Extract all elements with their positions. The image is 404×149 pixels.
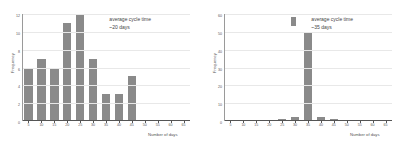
y-tick-label: 10 — [218, 104, 222, 108]
y-tick-label: 30 — [218, 68, 222, 72]
gridline — [22, 50, 190, 51]
y-tick-label: 40 — [218, 50, 222, 54]
legend-swatch-right — [291, 17, 296, 26]
x-tick-label: 45 — [332, 124, 336, 128]
annotation-right-line1: average cycle time — [311, 16, 353, 24]
gridline — [224, 14, 392, 15]
annotation-left: average cycle time ~20 days — [109, 16, 151, 31]
x-tick-label: 35 — [104, 124, 108, 128]
x-tick-label: 65 — [182, 124, 186, 128]
x-tick-label: 5 — [27, 124, 29, 128]
y-tick-label: 12 — [16, 15, 20, 19]
x-tick-label: 15 — [52, 124, 56, 128]
x-tick-label: 5 — [229, 124, 231, 128]
y-tick-label: 0 — [18, 122, 20, 126]
x-tick-label: 50 — [143, 124, 147, 128]
chart-panel-right: 01020304050605101520253035404550556065 F… — [202, 0, 404, 149]
x-tick-label: 25 — [78, 124, 82, 128]
x-tick-label: 30 — [91, 124, 95, 128]
x-tick-label: 25 — [280, 124, 284, 128]
gridline — [22, 14, 190, 15]
x-axis-label-left: Number of days — [148, 132, 178, 137]
plot-area-right: 01020304050605101520253035404550556065 — [224, 14, 392, 121]
y-axis-label-left: Frequency — [10, 53, 15, 73]
x-tick-label: 45 — [130, 124, 134, 128]
y-tick-label: 8 — [18, 50, 20, 54]
annotation-right-line2: ~35 days — [311, 24, 353, 32]
y-tick-label: 10 — [16, 33, 20, 37]
bar — [115, 94, 124, 121]
x-tick-label: 30 — [293, 124, 297, 128]
annotation-left-line1: average cycle time — [109, 16, 151, 24]
bar — [63, 23, 72, 121]
gridline — [22, 68, 190, 69]
x-tick-label: 40 — [117, 124, 121, 128]
x-tick-label: 55 — [358, 124, 362, 128]
gridline — [224, 32, 392, 33]
x-tick-label: 60 — [169, 124, 173, 128]
y-axis-line — [224, 14, 225, 121]
y-tick-label: 4 — [18, 86, 20, 90]
bar — [304, 32, 313, 121]
gridline — [224, 68, 392, 69]
gridline — [224, 50, 392, 51]
annotation-left-line2: ~20 days — [109, 24, 151, 32]
y-tick-label: 20 — [218, 86, 222, 90]
y-tick-label: 6 — [18, 68, 20, 72]
histogram-pair: 0246810125101520253035404550556065 Frequ… — [0, 0, 404, 149]
plot-area-left: 0246810125101520253035404550556065 — [22, 14, 190, 121]
x-tick-label: 60 — [371, 124, 375, 128]
bar — [102, 94, 111, 121]
x-tick-label: 15 — [254, 124, 258, 128]
y-axis-label-right: Frequency — [212, 53, 217, 73]
x-tick-label: 10 — [241, 124, 245, 128]
bar — [24, 68, 33, 122]
y-tick-label: 2 — [18, 104, 20, 108]
gridline — [22, 32, 190, 33]
annotation-right: average cycle time ~35 days — [311, 16, 353, 31]
y-axis-line — [22, 14, 23, 121]
y-tick-label: 0 — [220, 122, 222, 126]
gridline — [224, 103, 392, 104]
y-tick-label: 50 — [218, 33, 222, 37]
x-tick-label: 35 — [306, 124, 310, 128]
chart-panel-left: 0246810125101520253035404550556065 Frequ… — [0, 0, 202, 149]
y-tick-label: 60 — [218, 15, 222, 19]
x-tick-label: 40 — [319, 124, 323, 128]
x-tick-label: 50 — [345, 124, 349, 128]
x-tick-label: 20 — [65, 124, 69, 128]
x-tick-label: 10 — [39, 124, 43, 128]
bar — [128, 76, 137, 121]
gridline — [22, 103, 190, 104]
x-tick-label: 55 — [156, 124, 160, 128]
bar — [50, 68, 59, 122]
x-tick-label: 65 — [384, 124, 388, 128]
gridline — [224, 85, 392, 86]
gridline — [22, 85, 190, 86]
x-tick-label: 20 — [267, 124, 271, 128]
x-axis-label-right: Number of days — [350, 132, 380, 137]
